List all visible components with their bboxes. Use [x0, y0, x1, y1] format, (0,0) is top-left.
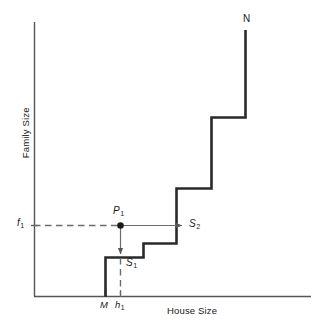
y-tick-label-f1: f1	[17, 218, 24, 229]
diagram-canvas	[0, 0, 324, 328]
arrow-label-s2-base: S	[189, 218, 196, 229]
x-tick-label-h1: h1	[115, 300, 125, 312]
point-label-p1-sub: 1	[120, 209, 125, 218]
x-tick-label-h1-sub: 1	[120, 304, 124, 311]
curve-end-label-n: N	[243, 14, 250, 24]
point-label-p1-base: P	[113, 205, 120, 216]
step-function-diagram: Family Size House Size N f1 P1 S1 S2 M h…	[0, 0, 324, 328]
arrow-label-s2: S2	[189, 219, 200, 230]
x-axis-label: House Size	[167, 306, 217, 316]
point-label-p1: P1	[113, 206, 124, 217]
arrow-label-s2-sub: 2	[196, 222, 201, 231]
y-axis-label: Family Size	[21, 91, 31, 175]
point-p1-marker	[117, 222, 124, 229]
arrow-label-s1-sub: 1	[133, 261, 138, 270]
y-tick-label-f1-sub: 1	[20, 221, 25, 230]
arrow-label-s1: S1	[126, 258, 137, 269]
arrow-label-s1-base: S	[126, 257, 133, 268]
x-tick-label-m: M	[100, 300, 108, 310]
